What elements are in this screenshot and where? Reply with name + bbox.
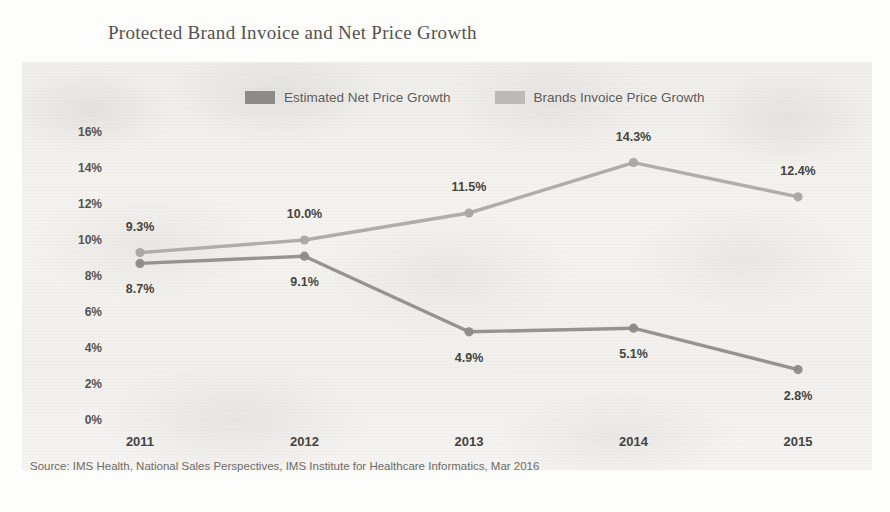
plot-area: 0%2%4%6%8%10%12%14%16% 20112012201320142… xyxy=(0,0,890,512)
data-point-label: 4.9% xyxy=(455,351,484,365)
data-point-marker[interactable] xyxy=(464,208,473,217)
data-point-marker[interactable] xyxy=(300,252,309,261)
series-layer xyxy=(0,0,890,512)
data-point-marker[interactable] xyxy=(793,192,802,201)
data-point-marker[interactable] xyxy=(300,235,309,244)
data-point-label: 12.4% xyxy=(780,164,815,178)
data-point-marker[interactable] xyxy=(464,327,473,336)
series-line xyxy=(140,163,798,253)
data-point-label: 11.5% xyxy=(452,180,487,194)
data-point-label: 9.1% xyxy=(290,275,319,289)
data-point-label: 10.0% xyxy=(287,207,322,221)
chart-figure: Protected Brand Invoice and Net Price Gr… xyxy=(0,0,890,512)
data-point-label: 2.8% xyxy=(784,389,813,403)
data-point-marker[interactable] xyxy=(793,365,802,374)
data-point-marker[interactable] xyxy=(629,324,638,333)
data-point-marker[interactable] xyxy=(629,158,638,167)
data-point-label: 5.1% xyxy=(619,347,648,361)
data-point-label: 14.3% xyxy=(616,130,651,144)
source-note: Source: IMS Health, National Sales Persp… xyxy=(30,460,539,472)
data-point-marker[interactable] xyxy=(135,259,144,268)
data-point-marker[interactable] xyxy=(135,248,144,257)
data-point-label: 8.7% xyxy=(126,282,155,296)
data-point-label: 9.3% xyxy=(126,220,155,234)
